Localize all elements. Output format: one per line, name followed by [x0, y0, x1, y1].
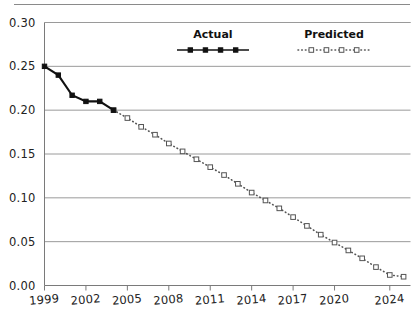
- data-point-actual-2001: [70, 93, 74, 97]
- data-point-predicted-2011: [208, 165, 213, 170]
- data-point-predicted-2012: [222, 173, 227, 178]
- data-point-predicted-2009: [180, 149, 185, 154]
- x-tick-label-2020: 2020: [319, 291, 350, 308]
- legend-marker-predicted-0: [309, 48, 314, 53]
- data-point-actual-2004: [111, 108, 115, 112]
- data-point-predicted-2018: [305, 224, 310, 229]
- line-chart: 0.000.050.100.150.200.250.30 19992002200…: [0, 0, 417, 318]
- data-point-predicted-2017: [291, 215, 296, 220]
- legend-marker-predicted-2: [339, 48, 344, 53]
- data-point-predicted-2010: [194, 157, 199, 162]
- data-point-predicted-2024: [387, 273, 392, 278]
- data-point-predicted-2005: [125, 116, 130, 121]
- legend-label-predicted: Predicted: [304, 28, 364, 41]
- data-point-predicted-2013: [236, 182, 241, 187]
- legend-marker-predicted-1: [324, 48, 329, 53]
- y-tick-label-0.05: 0.05: [9, 235, 35, 249]
- data-point-predicted-2007: [153, 132, 158, 137]
- data-point-predicted-2022: [360, 256, 365, 261]
- legend-label-actual: Actual: [193, 28, 232, 41]
- y-tick-label-0.25: 0.25: [9, 59, 35, 73]
- data-point-predicted-2023: [374, 265, 379, 270]
- data-point-predicted-2020: [332, 240, 337, 245]
- x-tick-label-2005: 2005: [111, 291, 142, 308]
- data-point-actual-1999: [42, 64, 46, 68]
- data-point-predicted-2006: [139, 125, 144, 130]
- page-divider-rule: [14, 4, 410, 5]
- series-predicted: [111, 108, 406, 279]
- y-tick-label-0.15: 0.15: [9, 147, 35, 161]
- y-tick-label-0.10: 0.10: [9, 191, 35, 205]
- legend-marker-actual-3: [233, 48, 237, 52]
- chart-figure: 0.000.050.100.150.200.250.30 19992002200…: [0, 0, 417, 318]
- legend-marker-predicted-3: [354, 48, 359, 53]
- legend-marker-actual-2: [218, 48, 222, 52]
- x-tick-label-2008: 2008: [153, 291, 184, 308]
- y-tick-label-0.00: 0.00: [9, 279, 35, 293]
- x-tick-label-2011: 2011: [194, 291, 225, 308]
- data-point-predicted-2019: [318, 232, 323, 237]
- gridlines-group: [45, 23, 411, 242]
- x-tick-label-2017: 2017: [277, 291, 308, 308]
- series-actual: [42, 64, 115, 112]
- data-point-actual-2003: [98, 99, 102, 103]
- x-tick-label-2002: 2002: [70, 291, 101, 308]
- x-axis-tick-labels-group: 199920022005200820112014201720202024: [29, 291, 405, 308]
- chart-legend: ActualPredicted: [177, 28, 370, 52]
- data-point-actual-2002: [84, 99, 88, 103]
- y-tick-label-0.20: 0.20: [9, 103, 35, 117]
- data-point-predicted-2008: [167, 141, 172, 146]
- x-tick-label-1999: 1999: [29, 291, 60, 308]
- data-point-actual-2000: [56, 73, 60, 77]
- data-point-predicted-2021: [346, 248, 351, 253]
- x-tick-marks-group: [45, 286, 390, 291]
- legend-marker-actual-0: [188, 48, 192, 52]
- y-tick-label-0.30: 0.30: [9, 16, 35, 30]
- data-point-predicted-2015: [263, 198, 268, 203]
- data-point-predicted-2016: [277, 206, 282, 211]
- data-point-predicted-2014: [249, 190, 254, 195]
- x-tick-label-2014: 2014: [236, 291, 267, 308]
- y-axis-tick-labels-group: 0.000.050.100.150.200.250.30: [9, 16, 35, 293]
- x-tick-label-2024: 2024: [374, 291, 405, 308]
- data-point-predicted-2025: [401, 274, 406, 279]
- legend-marker-actual-1: [203, 48, 207, 52]
- series-line-actual: [45, 66, 114, 110]
